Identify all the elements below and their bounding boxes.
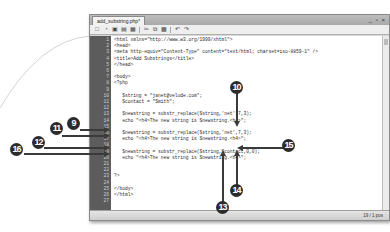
redo-icon[interactable]: ↷	[183, 26, 189, 33]
callout-14-line	[236, 155, 238, 185]
toolbar-separator	[170, 27, 171, 33]
code-line: 2<head>	[90, 43, 383, 49]
scrollbar-thumb[interactable]	[384, 39, 388, 45]
callout-13-arrowhead	[220, 150, 226, 156]
callout-9-line	[80, 129, 105, 131]
callout-16: 16	[10, 143, 23, 156]
save-all-icon[interactable]: ▤	[121, 26, 127, 33]
toolbar-separator	[139, 27, 140, 33]
code-line: 16 $newstring = substr_replace($string,'…	[90, 130, 383, 136]
cut-icon[interactable]: ✂	[143, 26, 149, 33]
code-line: 4<title>Add Substrings</title>	[90, 56, 383, 62]
callout-9: 9	[67, 117, 80, 130]
callout-16-line	[24, 153, 105, 155]
code-line: 7<body>	[90, 74, 383, 80]
callout-10: 10	[230, 81, 243, 94]
callout-15: 15	[282, 139, 295, 152]
undo-icon[interactable]: ↶	[174, 26, 180, 33]
callout-14: 14	[230, 184, 243, 197]
callout-15-line	[242, 147, 284, 149]
paste-icon[interactable]: ▩	[161, 26, 167, 33]
callout-16-arrowhead	[104, 151, 110, 157]
code-line: 6	[90, 68, 383, 74]
title-bar: add_substring.php* _ ▫ ×	[90, 15, 389, 25]
toolbar: □ ◔ ▣ ▤ ▦ ✂ ⧉ ▩ ↶ ↷	[90, 25, 389, 35]
print-icon[interactable]: ▦	[130, 26, 136, 33]
save-icon[interactable]: ▣	[112, 26, 118, 33]
copy-icon[interactable]: ⧉	[152, 26, 158, 33]
window-controls[interactable]: _ ▫ ×	[369, 16, 386, 24]
callout-11: 11	[50, 122, 63, 135]
callout-12-line	[44, 147, 105, 149]
code-line: 5</head>	[90, 62, 383, 68]
open-icon[interactable]: ◔	[103, 26, 109, 33]
code-line: 3<meta http-equiv="Content-Type" content…	[90, 49, 383, 55]
callout-10-arrowhead	[234, 121, 240, 127]
callout-11-line	[62, 135, 105, 137]
cursor-position: 19 / 1 pos	[363, 211, 383, 220]
new-file-icon[interactable]: □	[94, 26, 100, 33]
status-bar: 19 / 1 pos	[90, 210, 389, 220]
code-line: 27	[90, 198, 383, 204]
callout-11-arrowhead	[104, 133, 110, 139]
code-line: 17 echo "<h4>The new string is $newstrin…	[90, 136, 383, 142]
callout-10-line	[236, 93, 238, 123]
vertical-scrollbar[interactable]	[382, 36, 389, 210]
callout-12: 12	[32, 136, 45, 149]
code-line: 1<html xmlns="http://www.w3.org/1999/xht…	[90, 37, 383, 43]
callout-13-line	[222, 155, 224, 203]
callout-14-arrowhead	[234, 150, 240, 156]
callout-13: 13	[216, 201, 229, 214]
